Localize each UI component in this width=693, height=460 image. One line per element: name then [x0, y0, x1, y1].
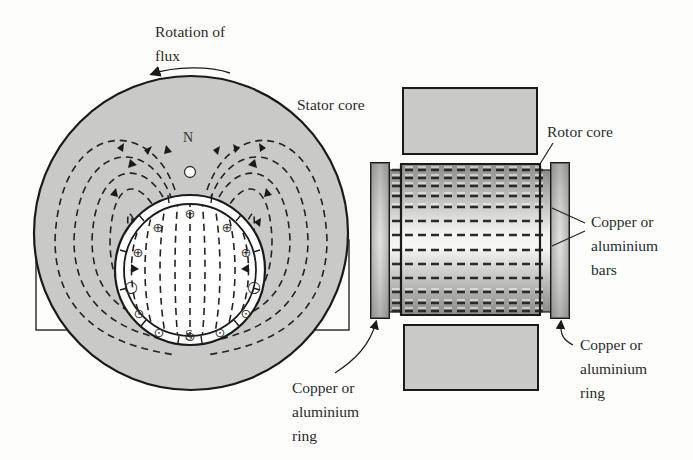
- right-ring-label-line1: Copper or: [580, 333, 642, 357]
- svg-text:⊕: ⊕: [153, 220, 164, 235]
- svg-text:○: ○: [247, 277, 261, 296]
- south-pole-label: S: [185, 328, 193, 344]
- bars-label-line2: aluminium: [591, 234, 658, 258]
- svg-text:⊙: ⊙: [241, 306, 252, 321]
- rotor-core-label: Rotor core: [547, 120, 613, 144]
- svg-text:⊕: ⊕: [185, 206, 196, 221]
- north-pole-label: N: [183, 130, 193, 146]
- rotation-arrow: [152, 68, 230, 74]
- left-ring-label-line1: Copper or: [292, 376, 354, 400]
- svg-text:⊙: ⊙: [154, 325, 165, 340]
- left-ring-label-line2: aluminium: [292, 400, 359, 424]
- rotor-conductors: [185, 167, 196, 178]
- svg-text:⊙: ⊙: [134, 306, 145, 321]
- rotation-label-line1: Rotation of: [155, 20, 225, 44]
- left-ring-label-line3: ring: [292, 424, 317, 448]
- rotation-label-line2: flux: [155, 44, 180, 68]
- stator-core-label: Stator core: [297, 93, 365, 117]
- stator-block-bottom: [404, 325, 538, 390]
- svg-text:⊕: ⊕: [133, 245, 144, 260]
- bars-label-line3: bars: [591, 258, 617, 282]
- bars-label-line1: Copper or: [591, 210, 653, 234]
- svg-text:⊙: ⊙: [215, 325, 226, 340]
- svg-text:○: ○: [124, 277, 138, 296]
- conductor-into-page: [185, 167, 196, 178]
- right-ring-label-line3: ring: [580, 381, 605, 405]
- svg-text:⊕: ⊕: [241, 245, 252, 260]
- svg-text:⊕: ⊕: [222, 220, 233, 235]
- stator-block-top: [403, 88, 537, 154]
- right-ring-label-line2: aluminium: [580, 357, 647, 381]
